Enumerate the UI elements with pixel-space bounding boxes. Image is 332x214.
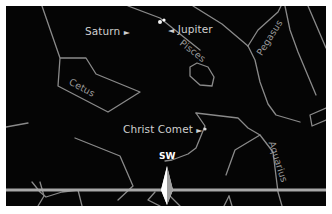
compass-direction-label: SW bbox=[159, 151, 175, 161]
jupiter-dot bbox=[162, 18, 165, 21]
comet-label[interactable]: Christ Comet ► bbox=[123, 124, 203, 135]
comet-pointer-icon: ► bbox=[196, 126, 202, 135]
saturn-pointer-icon: ► bbox=[124, 28, 130, 37]
saturn-dot bbox=[158, 20, 162, 24]
jupiter-pointer-icon: ◄ bbox=[168, 26, 174, 35]
comet-dot bbox=[203, 127, 206, 130]
compass-needle bbox=[161, 166, 173, 205]
jupiter-label[interactable]: ◄ Jupiter bbox=[168, 24, 213, 35]
saturn-label[interactable]: Saturn ► bbox=[85, 26, 130, 37]
